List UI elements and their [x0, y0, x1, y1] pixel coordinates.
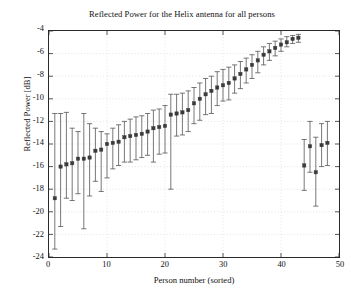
x-axis-label: Person number (sorted) — [48, 275, 340, 285]
x-tick-label: 30 — [211, 261, 235, 269]
x-tick-label: 0 — [36, 261, 60, 269]
x-tick-label: 40 — [270, 261, 294, 269]
x-tick-label: 20 — [153, 261, 177, 269]
y-axis-label: Reflected Power [dB] — [22, 34, 32, 194]
x-tick-label: 50 — [328, 261, 352, 269]
figure-canvas: Reflected Power for the Helix antenna fo… — [0, 0, 364, 296]
x-axis-tick-labels: 01020304050 — [0, 0, 364, 296]
x-tick-label: 10 — [94, 261, 118, 269]
